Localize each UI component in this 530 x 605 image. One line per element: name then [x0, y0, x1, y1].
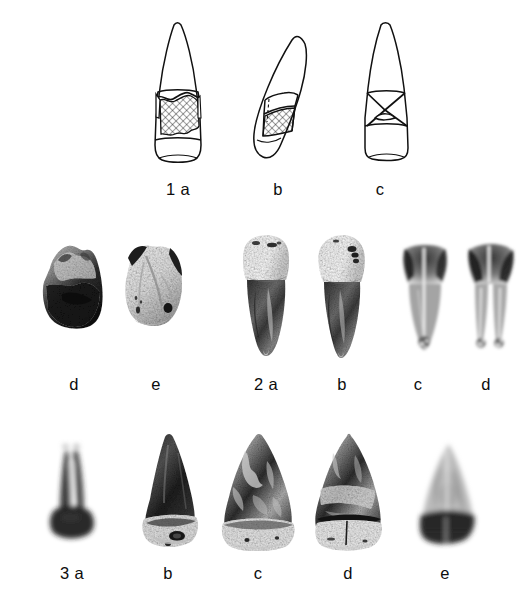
specimen-2b	[310, 232, 372, 360]
caption-2d-radiograph: d	[446, 376, 526, 393]
tooth-photo	[305, 431, 393, 551]
specimen-2e-fragment	[116, 236, 194, 338]
specimen-2d-radiograph	[462, 240, 520, 358]
tooth-drawing-labial	[140, 22, 216, 167]
caption-2d-fragment: d	[34, 376, 114, 393]
caption-1b: b	[238, 181, 318, 198]
figure-row-1: 1 a b	[0, 0, 530, 205]
fragment-photo	[116, 236, 194, 338]
figure-row-3: 3 a b	[0, 425, 530, 595]
specimen-3a-radiograph	[40, 439, 102, 551]
figure-row-2: d e	[0, 228, 530, 398]
tooth-photo	[132, 431, 210, 551]
caption-2b: b	[302, 376, 382, 393]
specimen-2a	[234, 232, 296, 360]
specimen-3b	[132, 431, 210, 551]
tooth-radiograph	[396, 240, 454, 358]
caption-3d: d	[308, 565, 388, 582]
specimen-3c	[215, 431, 303, 551]
caption-1c: c	[340, 181, 420, 198]
specimen-3e-radiograph	[412, 439, 484, 553]
caption-3a: 3 a	[32, 565, 112, 582]
specimen-1a	[140, 22, 216, 167]
fragment-photo	[36, 240, 112, 338]
caption-2a: 2 a	[226, 376, 306, 393]
tooth-photo	[234, 232, 296, 360]
tooth-drawing-mesial	[243, 22, 319, 167]
figure-plate: 1 a b	[0, 0, 530, 605]
specimen-1c	[345, 22, 421, 167]
tooth-radiograph	[412, 439, 484, 553]
tooth-drawing-lingual	[345, 22, 421, 167]
tooth-photo	[310, 232, 372, 360]
specimen-1b	[243, 22, 319, 167]
caption-2e-fragment: e	[116, 376, 196, 393]
specimen-2d-fragment	[36, 240, 112, 338]
tooth-radiograph	[462, 240, 520, 358]
specimen-3d	[305, 431, 393, 551]
caption-3c: c	[218, 565, 298, 582]
tooth-radiograph	[40, 439, 102, 551]
caption-1a: 1 a	[138, 181, 218, 198]
specimen-2c-radiograph	[396, 240, 454, 358]
caption-3b: b	[128, 565, 208, 582]
tooth-photo	[215, 431, 303, 551]
caption-3e: e	[405, 565, 485, 582]
